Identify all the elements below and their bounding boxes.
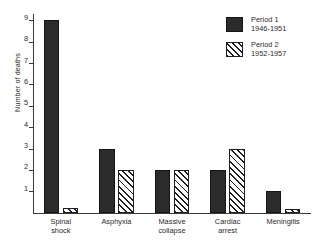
bar-meningitis-period-1: [266, 191, 282, 212]
y-axis-tick-7: [29, 63, 34, 64]
y-axis-tick-6: [29, 84, 34, 85]
x-axis-label-massive-collapse: Massivecollapse: [144, 217, 200, 235]
legend-label-period-1-name: Period 1: [251, 15, 286, 24]
legend-label-period-2: Period 2 1952-1957: [251, 40, 286, 59]
y-axis-line: [33, 14, 34, 214]
legend-entry-period-1: Period 1 1946-1951: [226, 16, 312, 41]
legend-label-period-2-years: 1952-1957: [251, 49, 286, 58]
x-axis-label-line: arrest: [200, 226, 256, 235]
y-axis-tick-9: [29, 20, 34, 21]
y-axis-tick-label-2: 2: [16, 166, 28, 167]
y-axis-tick-label-1: 1: [16, 188, 28, 189]
bar-meningitis-period-2: [285, 209, 301, 212]
bar-asphyxia-period-2: [118, 170, 134, 213]
bar-chart: Number of deaths 123456789 SpinalshockAs…: [0, 0, 313, 251]
legend-label-period-1-years: 1946-1951: [251, 24, 286, 33]
legend-swatch-period-2: [226, 42, 243, 57]
y-axis-tick-1: [29, 191, 34, 192]
bar-spinal-shock-period-2: [63, 208, 79, 212]
x-axis-label-line: collapse: [144, 226, 200, 235]
y-axis-tick-4: [29, 127, 34, 128]
y-axis-tick-label-6: 6: [16, 81, 28, 82]
bar-spinal-shock-period-1: [44, 20, 60, 212]
x-axis-label-spinal-shock: Spinalshock: [33, 217, 89, 235]
y-axis-tick-label-4: 4: [16, 124, 28, 125]
x-axis-label-asphyxia: Asphyxia: [89, 217, 145, 226]
bar-cardiac-arrest-period-1: [210, 170, 226, 213]
x-axis-label-line: Massive: [144, 217, 200, 226]
y-axis-label: Number of deaths: [13, 28, 22, 138]
bar-massive-collapse-period-2: [174, 170, 190, 213]
y-axis-tick-5: [29, 106, 34, 107]
x-axis-label-line: shock: [33, 226, 89, 235]
x-axis-label-line: Asphyxia: [89, 217, 145, 226]
bar-massive-collapse-period-1: [155, 170, 171, 213]
y-axis-tick-label-3: 3: [16, 145, 28, 146]
y-axis-tick-3: [29, 149, 34, 150]
y-axis-tick-label-9: 9: [16, 17, 28, 18]
x-axis-label-line: Cardiac: [200, 217, 256, 226]
bar-asphyxia-period-1: [99, 149, 115, 213]
y-axis-tick-label-7: 7: [16, 60, 28, 61]
y-axis-tick-8: [29, 42, 34, 43]
bar-cardiac-arrest-period-2: [229, 149, 245, 213]
legend-label-period-2-name: Period 2: [251, 40, 286, 49]
y-axis-tick-label-8: 8: [16, 38, 28, 39]
y-axis-tick-label-5: 5: [16, 102, 28, 103]
x-axis-label-line: Spinal: [33, 217, 89, 226]
x-axis-label-cardiac-arrest: Cardiacarrest: [200, 217, 256, 235]
x-axis-label-meningitis: Meningitis: [255, 217, 311, 226]
x-axis-label-line: Meningitis: [255, 217, 311, 226]
x-axis-line: [33, 213, 311, 214]
legend-swatch-period-1: [226, 17, 243, 32]
legend-entry-period-2: Period 2 1952-1957: [226, 41, 312, 66]
chart-legend: Period 1 1946-1951 Period 2 1952-1957: [226, 16, 312, 66]
legend-label-period-1: Period 1 1946-1951: [251, 15, 286, 34]
y-axis-tick-2: [29, 170, 34, 171]
